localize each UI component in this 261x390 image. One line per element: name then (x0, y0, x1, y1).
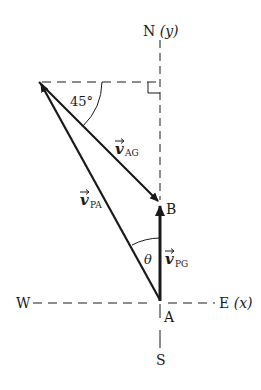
angle-45-label: 45° (70, 94, 93, 109)
vector-v-ag (39, 82, 158, 201)
svg-text:PA: PA (90, 200, 102, 210)
vector-v-pa (41, 84, 160, 300)
south-label: S (156, 352, 166, 368)
east-label: E (x) (219, 295, 253, 311)
north-label: N (y) (143, 23, 179, 39)
angle-theta-arc (132, 238, 160, 245)
right-angle-marker (148, 82, 160, 93)
svg-text:PG: PG (175, 259, 188, 269)
theta-label: θ (144, 252, 152, 267)
svg-text:AG: AG (124, 148, 139, 158)
v-pa-label: v PA (80, 190, 102, 211)
v-ag-label: v AG (115, 139, 139, 159)
west-label: W (16, 295, 31, 311)
point-b-label: B (166, 201, 176, 217)
vector-diagram: N (y) S W E (x) A B 45° θ v AG v PA v PG (0, 0, 261, 390)
point-a-label: A (163, 309, 175, 325)
v-pg-label: v PG (165, 249, 188, 270)
